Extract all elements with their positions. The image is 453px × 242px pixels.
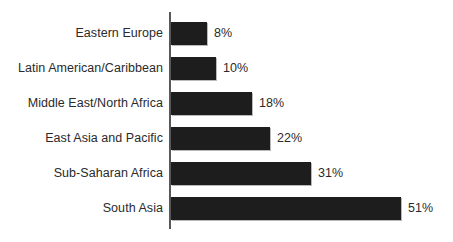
bar-category-label: South Asia [0, 197, 163, 220]
bar-row: Latin American/Caribbean 10% [0, 57, 453, 80]
bar-fill [171, 127, 270, 150]
bar-fill [171, 92, 252, 115]
bar-value-label: 31% [318, 162, 343, 185]
bar-row: Eastern Europe 8% [0, 22, 453, 45]
bar-category-label: Eastern Europe [0, 22, 163, 45]
bar-row: Sub-Saharan Africa 31% [0, 162, 453, 185]
bar-value-label: 22% [277, 127, 302, 150]
bar-fill [171, 162, 311, 185]
bar-category-label: Latin American/Caribbean [0, 57, 163, 80]
bar-fill [171, 197, 401, 220]
bar-category-label: Middle East/North Africa [0, 92, 163, 115]
bar-chart: Eastern Europe 8% Latin American/Caribbe… [0, 0, 453, 242]
bar-category-label: East Asia and Pacific [0, 127, 163, 150]
bar-fill [171, 22, 207, 45]
bar-value-label: 8% [214, 22, 232, 45]
bar-fill [171, 57, 216, 80]
bar-row: Middle East/North Africa 18% [0, 92, 453, 115]
bar-row: East Asia and Pacific 22% [0, 127, 453, 150]
bar-value-label: 18% [259, 92, 284, 115]
bar-row: South Asia 51% [0, 197, 453, 220]
bar-value-label: 51% [408, 197, 433, 220]
bar-value-label: 10% [223, 57, 248, 80]
bar-category-label: Sub-Saharan Africa [0, 162, 163, 185]
